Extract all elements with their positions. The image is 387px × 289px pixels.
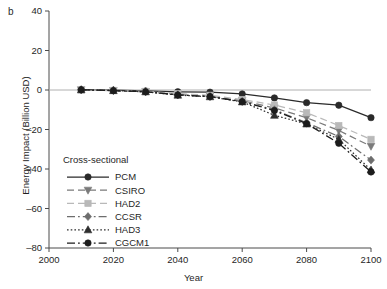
x-tick-label: 2040: [167, 254, 188, 265]
x-tick-label: 2080: [296, 254, 317, 265]
y-tick-label: 0: [37, 84, 42, 95]
data-series: [77, 87, 374, 151]
data-point-marker: [85, 174, 91, 180]
y-tick-label: 40: [31, 5, 42, 16]
chart-legend: Cross-sectionalPCMCSIROHAD2CCSRHAD3CGCM1: [63, 154, 149, 248]
data-point-marker: [368, 114, 374, 120]
chart-figure: b Energy Impact (Billion USD) Year 40200…: [0, 0, 387, 289]
data-point-marker: [207, 93, 213, 99]
legend-label: HAD2: [115, 198, 140, 209]
data-point-marker: [78, 87, 84, 93]
data-point-marker: [271, 95, 277, 101]
x-tick-label: 2060: [232, 254, 253, 265]
data-point-marker: [175, 92, 181, 98]
legend-label: CCSR: [115, 211, 142, 222]
data-point-marker: [336, 140, 342, 146]
y-tick-label: –20: [26, 124, 42, 135]
y-tick-label: –60: [26, 203, 42, 214]
y-tick-label: 20: [31, 45, 42, 56]
data-point-marker: [84, 213, 91, 221]
y-tick-label: –80: [26, 242, 42, 253]
legend-item[interactable]: PCM: [67, 171, 136, 182]
data-point-marker: [303, 110, 309, 116]
legend-title: Cross-sectional: [63, 154, 128, 165]
x-tick-label: 2100: [360, 254, 381, 265]
data-point-marker: [303, 120, 309, 126]
legend-item[interactable]: CCSR: [67, 211, 142, 222]
series-line: [81, 90, 371, 146]
legend-item[interactable]: CSIRO: [67, 185, 145, 196]
data-point-marker: [142, 89, 148, 95]
data-point-marker: [303, 99, 309, 105]
x-tick-label: 2000: [38, 254, 59, 265]
data-point-marker: [367, 156, 374, 164]
data-series: [78, 86, 374, 120]
legend-item[interactable]: HAD3: [67, 224, 140, 235]
y-tick-label: –40: [26, 163, 42, 174]
data-point-marker: [271, 107, 277, 113]
legend-item[interactable]: HAD2: [67, 198, 140, 209]
legend-label: CSIRO: [115, 185, 145, 196]
data-point-marker: [85, 240, 91, 246]
data-point-marker: [336, 122, 342, 128]
series-line: [81, 90, 371, 160]
legend-label: CGCM1: [115, 237, 149, 248]
data-point-marker: [110, 87, 116, 93]
data-point-marker: [239, 98, 245, 104]
x-tick-label: 2020: [103, 254, 124, 265]
legend-label: PCM: [115, 171, 136, 182]
data-point-marker: [367, 143, 375, 150]
data-series: [78, 87, 374, 143]
plot-area: 40200–20–40–60–8020002020204020602080210…: [0, 0, 387, 289]
legend-label: HAD3: [115, 224, 140, 235]
legend-item[interactable]: CGCM1: [67, 237, 149, 248]
data-point-marker: [368, 169, 374, 175]
data-point-marker: [336, 102, 342, 108]
data-point-marker: [368, 136, 374, 142]
axes: 40200–20–40–60–8020002020204020602080210…: [26, 5, 381, 265]
series-line: [81, 90, 371, 118]
series-line: [81, 90, 371, 140]
data-point-marker: [85, 200, 91, 206]
